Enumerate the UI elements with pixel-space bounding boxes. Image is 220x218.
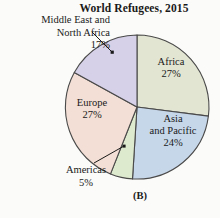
slice-label-africa-name: Africa xyxy=(143,56,199,68)
slice-label-mena-name-line2: North Africa xyxy=(2,27,110,40)
slice-label-africa: Africa 27% xyxy=(143,56,199,80)
slice-label-asia-and-pacific: Asia and Pacific 24% xyxy=(139,113,207,150)
slice-label-africa-percent: 27% xyxy=(143,68,199,80)
slice-label-mena-name-line1: Middle East and xyxy=(2,14,110,27)
leader-dot-americas xyxy=(123,145,126,148)
slice-label-mena-percent: 17% xyxy=(2,39,110,52)
leader-dot-mena xyxy=(111,51,114,54)
pie-chart-figure: World Refugees, 2015 Africa 27% Asia and… xyxy=(0,0,220,218)
slice-label-middle-east-and-north-africa: Middle East and North Africa 17% xyxy=(2,14,110,52)
slice-label-europe: Europe 27% xyxy=(64,97,120,121)
slice-label-europe-name: Europe xyxy=(64,97,120,109)
slice-label-asia-name-line2: and Pacific xyxy=(139,125,207,137)
slice-label-asia-percent: 24% xyxy=(139,137,207,149)
slice-label-europe-percent: 27% xyxy=(64,109,120,121)
figure-caption: (B) xyxy=(120,190,160,201)
slice-label-americas-percent: 5% xyxy=(48,177,124,190)
slice-label-americas-name: Americas xyxy=(48,164,124,177)
slice-label-americas: Americas 5% xyxy=(48,164,124,189)
slice-label-asia-name-line1: Asia xyxy=(139,113,207,125)
